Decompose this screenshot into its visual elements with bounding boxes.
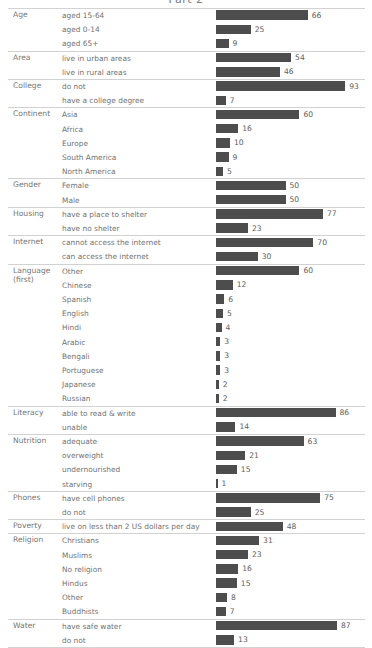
row-label: have a place to shelter — [62, 210, 147, 219]
chart-row: Europe10 — [0, 136, 372, 150]
bar-value-label: 21 — [249, 451, 259, 460]
bar — [216, 110, 299, 119]
bar-value-label: 9 — [233, 39, 238, 48]
chart-row: Buddhists7 — [0, 604, 372, 618]
bar-track — [216, 493, 366, 502]
chart-row: live in rural areas46 — [0, 65, 372, 79]
chart-row: do not13 — [0, 633, 372, 647]
bar — [216, 493, 320, 502]
row-label: aged 15-64 — [62, 11, 104, 20]
chart-row: have a place to shelter77 — [0, 207, 372, 221]
bar-track — [216, 507, 366, 516]
category-group: GenderFemale50Male50 — [0, 178, 372, 206]
row-label: aged 0-14 — [62, 25, 100, 34]
bar — [216, 39, 229, 48]
row-label: do not — [62, 508, 86, 517]
bar-track — [216, 39, 366, 48]
bar-value-label: 14 — [239, 422, 249, 431]
category-group: Collegedo not93have a college degree7 — [0, 79, 372, 107]
bar-track — [216, 110, 366, 119]
bar-value-label: 70 — [317, 238, 327, 247]
row-label: able to read & write — [62, 409, 136, 418]
bar — [216, 209, 323, 218]
bar-value-label: 86 — [340, 408, 350, 417]
bar-track — [216, 365, 366, 374]
row-label: live in rural areas — [62, 68, 127, 77]
bar-value-label: 50 — [290, 181, 300, 190]
bar — [216, 195, 286, 204]
bar — [216, 167, 223, 176]
bar-track — [216, 607, 366, 616]
chart-row: overweight21 — [0, 448, 372, 462]
row-label: can access the internet — [62, 252, 149, 261]
row-label: overweight — [62, 451, 103, 460]
bar — [216, 238, 313, 247]
row-label: Africa — [62, 125, 83, 134]
bar-value-label: 46 — [284, 67, 294, 76]
chart-row: Portuguese3 — [0, 363, 372, 377]
bar-value-label: 54 — [295, 53, 305, 62]
bar — [216, 152, 229, 161]
category-group: Language (first)Other60Chinese12Spanish6… — [0, 264, 372, 406]
row-label: South America — [62, 153, 116, 162]
bar — [216, 365, 220, 374]
row-label: have no shelter — [62, 224, 120, 233]
bar-value-label: 31 — [263, 536, 273, 545]
row-label: Russian — [62, 394, 90, 403]
bar-value-label: 87 — [341, 621, 351, 630]
bar — [216, 337, 220, 346]
bar — [216, 294, 224, 303]
bar-track — [216, 223, 366, 232]
bar-track — [216, 351, 366, 360]
bar — [216, 223, 248, 232]
chart-row: aged 15-6466 — [0, 8, 372, 22]
bar-value-label: 6 — [228, 295, 233, 304]
bar-value-label: 25 — [255, 25, 265, 34]
chart-title-strip: Part 2 — [0, 0, 372, 8]
bar-value-label: 16 — [242, 124, 252, 133]
row-label: Europe — [62, 139, 88, 148]
bar-value-label: 5 — [227, 309, 232, 318]
bar-track — [216, 53, 366, 62]
bar — [216, 436, 304, 445]
bar-track — [216, 167, 366, 176]
bar-track — [216, 238, 366, 247]
bar — [216, 309, 223, 318]
category-group: Ageaged 15-6466aged 0-1425aged 65+9 — [0, 8, 372, 51]
bar-track — [216, 209, 366, 218]
row-label: Hindus — [62, 579, 88, 588]
chart-row: Spanish6 — [0, 292, 372, 306]
chart-row: Other8 — [0, 590, 372, 604]
row-label: Christians — [62, 536, 99, 545]
row-label: English — [62, 309, 89, 318]
row-label: unable — [62, 423, 87, 432]
bar-value-label: 4 — [226, 323, 231, 332]
chart-title: Part 2 — [168, 0, 203, 6]
bar-track — [216, 323, 366, 332]
bar-track — [216, 96, 366, 105]
bar — [216, 252, 258, 261]
chart-row: Bengali3 — [0, 349, 372, 363]
bar-track — [216, 436, 366, 445]
row-label: Portuguese — [62, 366, 104, 375]
category-group: Literacyable to read & write86unable14 — [0, 406, 372, 434]
chart-row: South America9 — [0, 150, 372, 164]
bar-value-label: 1 — [222, 479, 227, 488]
bar — [216, 593, 227, 602]
bar-value-label: 2 — [223, 380, 228, 389]
chart-row: Hindus15 — [0, 576, 372, 590]
bar — [216, 138, 230, 147]
bar-value-label: 48 — [287, 522, 297, 531]
bar — [216, 522, 283, 531]
category-group: ReligionChristians31Muslims23No religion… — [0, 533, 372, 618]
bar-track — [216, 593, 366, 602]
bar-track — [216, 564, 366, 573]
bar-value-label: 50 — [290, 195, 300, 204]
bar-value-label: 66 — [312, 11, 322, 20]
category-group: Arealive in urban areas54live in rural a… — [0, 51, 372, 79]
chart-row: Japanese2 — [0, 377, 372, 391]
bar — [216, 451, 245, 460]
chart-row: have cell phones75 — [0, 491, 372, 505]
bar — [216, 635, 234, 644]
chart-row: do not25 — [0, 505, 372, 519]
